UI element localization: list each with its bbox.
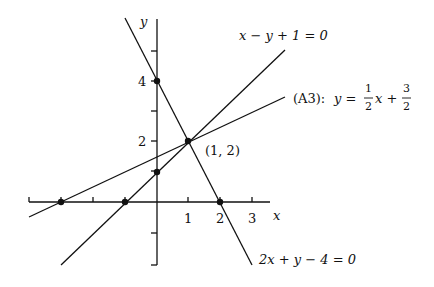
label-intersection: (1, 2) <box>205 143 240 158</box>
point-neg3-0 <box>58 199 64 205</box>
label-x-y-1: x − y + 1 = 0 <box>239 28 328 43</box>
point-0-4 <box>154 78 160 84</box>
label-a3-prefix: (A3): <box>293 91 325 106</box>
point-1-2 <box>185 138 191 144</box>
point-0-1 <box>154 169 160 175</box>
line-x-y-1 <box>61 50 285 265</box>
x-axis-label: x <box>273 208 281 223</box>
frac1-den: 2 <box>365 100 372 113</box>
y-tick-label: 2 <box>138 134 146 149</box>
label-a3-lhs: y = <box>333 91 356 106</box>
frac2-num: 3 <box>403 82 410 95</box>
axes <box>29 19 270 265</box>
label-a3-var: x + <box>375 91 397 106</box>
y-axis-label: y <box>139 14 148 29</box>
label-a3: (A3): y = 1 2 x + 3 2 <box>293 82 411 113</box>
x-tick-label: 3 <box>248 211 256 226</box>
point-2-0 <box>217 199 223 205</box>
point-neg1-0 <box>122 199 128 205</box>
diagram-canvas: y x 1 2 3 4 2 x − y + 1 = 0 2x + y − 4 =… <box>0 0 434 287</box>
x-tick-label: 2 <box>216 211 224 226</box>
frac1-num: 1 <box>365 82 372 95</box>
x-tick-label: 1 <box>184 211 192 226</box>
frac2-den: 2 <box>403 100 410 113</box>
y-tick-label: 4 <box>138 74 146 89</box>
label-2x-y-4: 2x + y − 4 = 0 <box>258 252 356 267</box>
